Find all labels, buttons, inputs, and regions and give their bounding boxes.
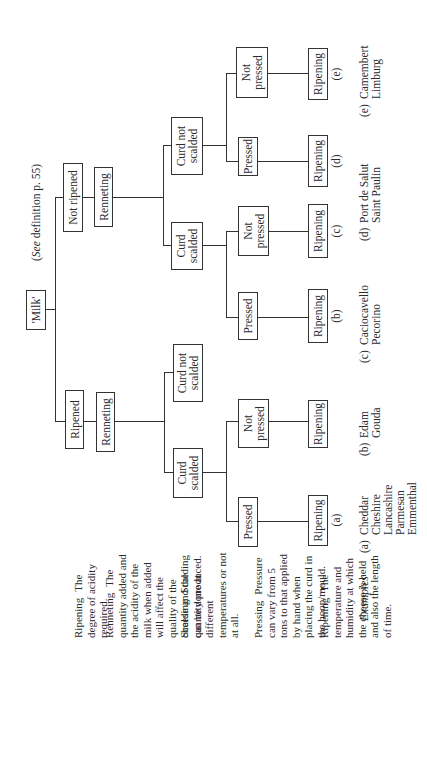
- connector: [203, 145, 226, 146]
- pressed-box-a: Pressed: [238, 497, 258, 547]
- connector: [83, 197, 94, 198]
- definition-scalding: ScaldingScalding can be done at differen…: [178, 548, 241, 638]
- connector: [113, 197, 163, 198]
- milk-label: 'Milk': [30, 297, 42, 324]
- ripened-renneting-box: Renneting: [96, 392, 115, 452]
- connector: [226, 161, 238, 162]
- connector: [203, 245, 226, 246]
- connector: [269, 231, 308, 232]
- not-ripened-box: Not ripened: [63, 163, 83, 232]
- connector: [269, 421, 308, 422]
- pressed-box-d: Pressed: [238, 137, 258, 176]
- example-group-d: (d) Port de Salut Saint Paulin: [358, 164, 382, 241]
- connector: [164, 472, 173, 473]
- ripening-box-ripened-not-pressed: Ripening: [308, 400, 328, 448]
- connector: [226, 521, 238, 522]
- connector: [203, 472, 226, 473]
- ripening-box-a: Ripening: [308, 495, 328, 546]
- connector: [164, 373, 165, 473]
- leaf-tag-c: (c): [330, 216, 342, 246]
- connector: [55, 197, 63, 198]
- not-pressed-box-e: Not pressed: [236, 47, 268, 98]
- leaf-tag-e: (e): [330, 59, 342, 89]
- connector: [258, 161, 308, 162]
- ripening-box-e: Ripening: [308, 48, 328, 100]
- leaf-tag-a: (a): [330, 505, 342, 535]
- connector: [163, 145, 171, 146]
- not-pressed-box-ripened: Not pressed: [238, 399, 269, 448]
- connector: [226, 317, 238, 318]
- not-ripened-curd-not-scalded-box: Curd not scalded: [171, 117, 203, 175]
- connector: [55, 198, 56, 422]
- example-group-c: (c) Caciocavello Pecorino: [358, 285, 382, 363]
- connector: [226, 231, 238, 232]
- connector: [258, 521, 308, 522]
- definition-pressing: PressingPressure can vary from 5 tons to…: [252, 548, 327, 638]
- definition-ripening-2: RipeningThe temperature and humidity at …: [318, 548, 393, 638]
- connector: [84, 421, 96, 422]
- ripening-box-d: Ripening: [308, 135, 328, 187]
- leaf-tag-b: (b): [330, 301, 342, 331]
- ripened-curd-scalded-box: Curd scalded: [173, 448, 203, 498]
- ripening-box-c: Ripening: [308, 204, 328, 258]
- connector: [268, 73, 308, 74]
- leaf-tag-d: (d): [330, 146, 342, 176]
- not-pressed-box-c: Not pressed: [238, 206, 269, 256]
- milk-root-box: 'Milk': [26, 290, 46, 330]
- connector: [226, 74, 227, 162]
- not-ripened-curd-scalded-box: Curd scalded: [171, 222, 203, 270]
- ripening-box-b: Ripening: [308, 289, 328, 343]
- connector: [226, 73, 236, 74]
- connector: [163, 146, 164, 246]
- connector: [46, 309, 55, 310]
- connector: [226, 232, 227, 318]
- connector: [163, 245, 171, 246]
- connector: [226, 422, 227, 522]
- connector: [115, 421, 164, 422]
- connector: [258, 317, 308, 318]
- example-group-b: (b) Edam Gouda: [358, 407, 382, 456]
- example-group-e: (e) Camembert Limburg: [358, 45, 382, 117]
- ripened-box: Ripened: [65, 390, 84, 449]
- connector: [164, 372, 173, 373]
- connector: [55, 421, 65, 422]
- example-group-a: (a) Cheddar Cheshire Lancashire Parmesan…: [358, 482, 418, 553]
- cheese-classification-diagram: 'Milk' (See definition p. 55) Ripened Re…: [0, 0, 427, 759]
- pressed-box-b: Pressed: [238, 292, 258, 340]
- ripened-curd-not-scalded-box: Curd not scalded: [173, 344, 203, 402]
- connector: [226, 421, 238, 422]
- definition-note: (See definition p. 55): [30, 71, 42, 281]
- not-ripened-renneting-box: Renneting: [94, 167, 113, 227]
